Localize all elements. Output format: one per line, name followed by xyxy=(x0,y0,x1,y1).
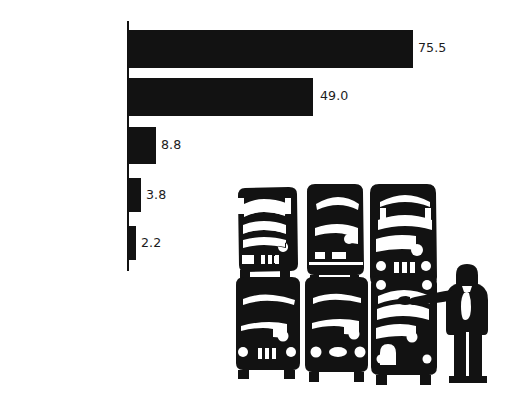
bus-icon xyxy=(371,275,437,385)
bar-rect[interactable] xyxy=(128,78,313,116)
bar-value-label: 3.8 xyxy=(146,189,166,202)
bar-value-label: 8.8 xyxy=(161,139,181,152)
bus-icon xyxy=(236,277,300,379)
bus-icon xyxy=(305,277,368,382)
chart-figure: U.S. 75.5 European Union 49.0 South Amer… xyxy=(0,0,514,395)
bus-icon xyxy=(307,184,364,283)
bar-rect[interactable] xyxy=(128,178,141,212)
bar-value-label: 49.0 xyxy=(320,90,348,103)
bar-value-label: 2.2 xyxy=(141,237,161,250)
bar-value-label: 75.5 xyxy=(418,42,446,55)
bar-rect[interactable] xyxy=(128,30,413,68)
bus-icon xyxy=(238,187,298,279)
bus-illustration xyxy=(228,182,514,387)
bar-rect[interactable] xyxy=(128,127,156,164)
bar-rect[interactable] xyxy=(128,226,136,260)
